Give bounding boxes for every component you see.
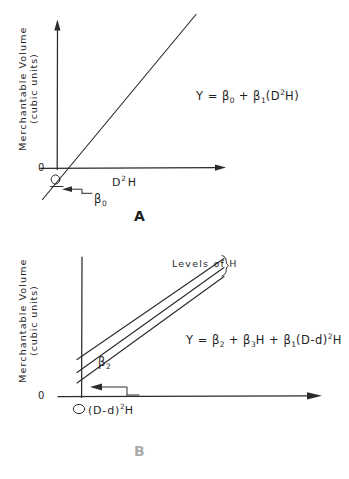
panel-b: Merchantable Volume (cubic units) 0 (D-d…: [0, 235, 349, 479]
panel-a-beta0-leader: [62, 186, 92, 193]
panel-a-x-label-base: D: [112, 176, 121, 189]
panel-a: Merchantable Volume (cubic units) 0 D2 H…: [0, 0, 349, 240]
panel-b-eq-equals: =: [198, 333, 208, 347]
panel-b-beta2-symbol: β: [98, 355, 106, 369]
panel-b-beta2-label: β2: [98, 356, 111, 372]
panel-a-x-label-exponent: 2: [121, 174, 126, 183]
panel-b-eq-lhs: Y: [186, 333, 194, 347]
panel-b-drawing: [0, 235, 349, 479]
panel-a-regression-line: [43, 15, 197, 200]
panel-b-beta2-subscript: 2: [106, 362, 111, 371]
panel-b-x-label-group: (D-d): [88, 404, 120, 417]
panel-b-eq-beta2-sub: 2: [220, 340, 225, 349]
panel-a-eq-beta1: β: [253, 89, 261, 103]
figure-page: Merchantable Volume (cubic units) 0 D2 H…: [0, 0, 349, 479]
panel-b-eq-beta2: β: [212, 333, 220, 347]
panel-a-x-axis-label: D2 H: [112, 175, 137, 189]
panel-a-equation: Y = β0 + β1(D2H): [196, 89, 299, 106]
panel-a-letter: A: [134, 209, 146, 225]
panel-b-beta2-leader: [90, 384, 139, 396]
panel-a-eq-plus: +: [239, 89, 249, 103]
panel-a-eq-var-suffix: H: [285, 89, 294, 103]
panel-a-y-axis: [54, 20, 60, 170]
panel-a-eq-equals: =: [208, 89, 218, 103]
panel-a-eq-close-paren: ): [294, 89, 299, 103]
panel-a-origin-label: 0: [38, 162, 45, 173]
panel-b-letter: B: [134, 444, 146, 460]
panel-b-equation: Y = β2 + β3H + β1(D-d)2H: [186, 333, 342, 350]
panel-b-levels-of-h-label: Levels of H: [172, 259, 238, 270]
panel-b-eq-plus-2: +: [269, 333, 279, 347]
panel-b-eq-h-1: H: [256, 333, 265, 347]
panel-a-x-label-suffix: H: [128, 176, 137, 189]
panel-b-eq-group: (D-d): [296, 333, 328, 347]
panel-b-origin-marker: [73, 404, 84, 413]
panel-a-beta0-label: β0: [94, 193, 107, 209]
panel-a-beta0-subscript: 0: [102, 199, 107, 208]
panel-a-eq-beta0-sub: 0: [230, 96, 235, 105]
panel-a-drawing: [0, 0, 349, 240]
panel-b-y-axis-label: Merchantable Volume (cubic units): [18, 251, 39, 391]
panel-b-eq-h-2: H: [333, 333, 342, 347]
panel-a-y-axis-label: Merchantable Volume (cubic units): [18, 19, 39, 159]
panel-b-x-axis-label: (D-d)2H: [88, 403, 134, 417]
panel-a-x-axis: [40, 164, 226, 170]
panel-b-eq-beta3: β: [243, 333, 251, 347]
panel-a-beta0-symbol: β: [94, 192, 102, 206]
panel-b-x-label-suffix: H: [125, 404, 134, 417]
panel-a-y-axis-label-line2: (cubic units): [29, 19, 40, 159]
panel-a-eq-var: D: [271, 89, 280, 103]
panel-b-x-axis: [58, 392, 322, 399]
panel-b-y-axis-label-line2: (cubic units): [29, 251, 40, 391]
panel-a-eq-lhs: Y: [196, 89, 204, 103]
panel-a-eq-beta0: β: [222, 89, 230, 103]
panel-b-eq-plus-1: +: [229, 333, 239, 347]
panel-b-origin-label: 0: [38, 390, 45, 401]
